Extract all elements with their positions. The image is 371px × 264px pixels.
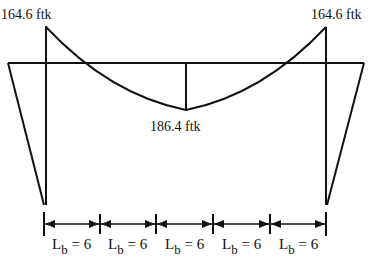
left-triangle-edge [8,63,44,205]
right-triangle-edge [327,63,364,205]
segment-label-1: Lb = 6 [52,236,92,257]
svg-text:Lb = 6: Lb = 6 [108,236,148,257]
svg-text:Lb = 6: Lb = 6 [279,236,319,257]
segment-label-3: Lb = 6 [165,236,205,257]
segment-label-5: Lb = 6 [279,236,319,257]
right-moment-label: 164.6 ftk [311,7,362,22]
svg-text:Lb = 6: Lb = 6 [165,236,205,257]
moment-diagram: 164.6 ftk 164.6 ftk 186.4 ftk Lb = 6 Lb … [0,0,371,264]
segment-label-2: Lb = 6 [108,236,148,257]
segment-label-4: Lb = 6 [222,236,262,257]
svg-text:Lb = 6: Lb = 6 [222,236,262,257]
svg-text:Lb = 6: Lb = 6 [52,236,92,257]
midspan-moment-label: 186.4 ftk [150,119,201,134]
left-moment-label: 164.6 ftk [1,7,52,22]
